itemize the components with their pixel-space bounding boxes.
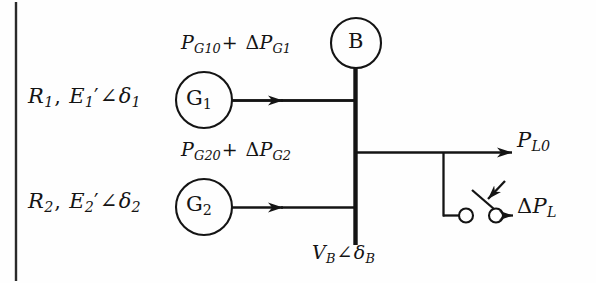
pg1-dp-symbol: P bbox=[259, 31, 272, 53]
switch-left-terminal[interactable] bbox=[459, 209, 473, 223]
g2-resistance-subscript: 2 bbox=[44, 199, 53, 215]
pg2-p-subscript: G20 bbox=[194, 148, 221, 163]
switch-right-terminal[interactable] bbox=[489, 209, 503, 223]
g1-delta-subscript: 1 bbox=[132, 94, 141, 110]
g1-resistance-subscript: 1 bbox=[44, 94, 53, 110]
g2-angle-symbol: ∠ bbox=[99, 189, 119, 213]
generator-1-parameters-label: R1, E1′∠δ1 bbox=[28, 86, 141, 109]
diagram-canvas bbox=[0, 0, 596, 283]
pg2-plus-sign: + bbox=[221, 138, 239, 160]
g1-letter-subscript: 1 bbox=[203, 96, 212, 112]
pl0-p-symbol: P bbox=[517, 128, 531, 152]
g2-resistance-symbol: R bbox=[28, 189, 44, 213]
g1-delta-symbol: δ bbox=[119, 84, 132, 108]
base-load-label: PL0 bbox=[517, 130, 550, 153]
pg1-p-subscript: G10 bbox=[194, 41, 221, 56]
g1-resistance-symbol: R bbox=[28, 84, 44, 108]
pg2-p-symbol: P bbox=[181, 138, 194, 160]
switch-blade[interactable] bbox=[472, 190, 494, 209]
pg2-dp-symbol: P bbox=[259, 138, 272, 160]
bus-symbol-text: B bbox=[348, 31, 363, 52]
pg1-plus-sign: + bbox=[221, 31, 239, 53]
vb-delta-symbol: δ bbox=[354, 241, 366, 263]
g1-angle-symbol: ∠ bbox=[99, 84, 119, 108]
dpl-p-subscript: L bbox=[547, 204, 556, 220]
dpl-p-symbol: P bbox=[532, 194, 546, 218]
g2-letter-subscript: 2 bbox=[203, 202, 212, 218]
g1-prime-mark: ′ bbox=[94, 84, 99, 108]
generator-2-power-label: PG20+ ΔPG2 bbox=[181, 140, 291, 163]
g2-comma: , bbox=[53, 189, 62, 213]
pg1-p-symbol: P bbox=[181, 31, 194, 53]
generator-2-symbol-text: G2 bbox=[186, 194, 212, 217]
g2-delta-subscript: 2 bbox=[132, 199, 141, 215]
vb-delta-subscript: B bbox=[366, 251, 375, 266]
generator-2-parameters-label: R2, E2′∠δ2 bbox=[28, 191, 141, 214]
switch-actuation-arrow bbox=[488, 181, 505, 199]
g2-letter: G bbox=[186, 192, 203, 216]
pg2-delta-symbol: Δ bbox=[245, 138, 259, 160]
g2-emf-subscript: 2 bbox=[85, 199, 94, 215]
vb-v-subscript: B bbox=[326, 251, 335, 266]
g1-letter: G bbox=[186, 86, 203, 110]
power-system-diagram: R1, E1′∠δ1 R2, E2′∠δ2 PG10+ ΔPG1 PG20+ Δ… bbox=[0, 0, 596, 283]
generator-1-power-label: PG10+ ΔPG1 bbox=[181, 33, 291, 56]
g1-comma: , bbox=[53, 84, 62, 108]
g1-emf-subscript: 1 bbox=[85, 94, 94, 110]
bus-voltage-label: VB∠δB bbox=[312, 243, 375, 266]
g1-emf-symbol: E bbox=[69, 84, 85, 108]
pl0-p-subscript: L0 bbox=[531, 138, 550, 154]
g2-prime-mark: ′ bbox=[94, 189, 99, 213]
g2-delta-symbol: δ bbox=[119, 189, 132, 213]
vb-angle-symbol: ∠ bbox=[336, 241, 354, 263]
pg1-dp-subscript: G1 bbox=[273, 41, 292, 56]
step-load-label: ΔPL bbox=[517, 196, 556, 219]
pg1-delta-symbol: Δ bbox=[245, 31, 259, 53]
vb-v-symbol: V bbox=[312, 241, 326, 263]
generator-1-symbol-text: G1 bbox=[186, 88, 212, 111]
g2-emf-symbol: E bbox=[69, 189, 85, 213]
pg2-dp-subscript: G2 bbox=[273, 148, 292, 163]
dpl-delta-symbol: Δ bbox=[517, 194, 532, 218]
